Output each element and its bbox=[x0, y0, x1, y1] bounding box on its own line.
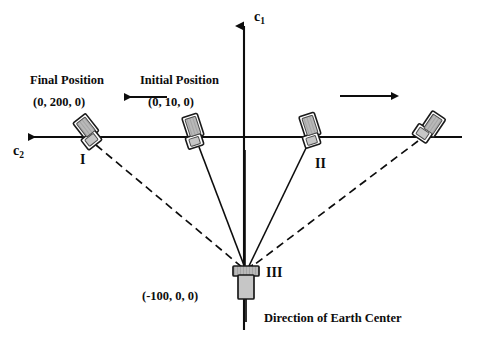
satellite-marker-I: I bbox=[80, 153, 85, 167]
final-position-coordinates: (0, 200, 0) bbox=[33, 96, 85, 109]
c2-axis-subscript: 2 bbox=[19, 150, 24, 160]
c1-axis-label: c1 bbox=[254, 10, 265, 26]
diagram-canvas bbox=[0, 0, 486, 341]
c1-axis-subscript: 1 bbox=[260, 16, 265, 26]
figure-container: Final Position (0, 200, 0) Initial Posit… bbox=[0, 0, 486, 341]
earth-center-caption: Direction of Earth Center bbox=[264, 312, 402, 325]
satellite-earth-center bbox=[233, 266, 259, 322]
satellite-1-final bbox=[70, 113, 105, 150]
satellite-2-initial bbox=[179, 113, 207, 149]
satellite-marker-II: II bbox=[315, 157, 326, 171]
c2-axis-label: c2 bbox=[13, 144, 24, 160]
satellite-marker-III: III bbox=[266, 266, 282, 280]
final-position-heading: Final Position bbox=[30, 74, 104, 87]
initial-position-heading: Initial Position bbox=[140, 74, 219, 87]
sight-line-satellite-3 bbox=[248, 146, 307, 268]
initial-position-coordinates: (0, 10, 0) bbox=[148, 96, 194, 109]
satellite-4 bbox=[412, 108, 446, 145]
sight-line-satellite-4 bbox=[250, 141, 418, 268]
earth-center-coordinates: (-100, 0, 0) bbox=[142, 290, 198, 303]
sight-lines bbox=[96, 141, 418, 268]
satellite-3 bbox=[296, 112, 324, 148]
